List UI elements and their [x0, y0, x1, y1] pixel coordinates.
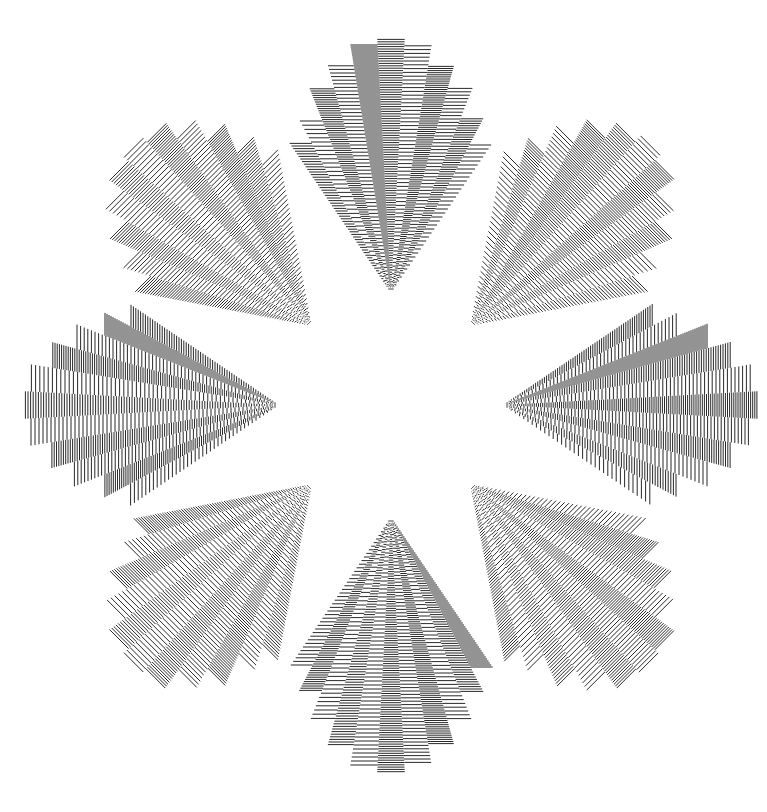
op-art-rosette [0, 0, 767, 812]
